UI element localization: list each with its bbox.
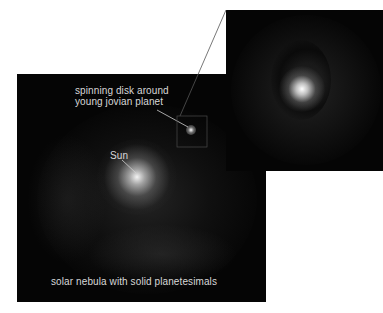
disk-label-line1: spinning disk around [75,85,169,96]
jovian-planet-dot [186,125,196,135]
nebula-caption: solar nebula with solid planetesimals [51,276,217,287]
spiral-arm-lower [87,224,237,284]
disk-label-line2: young jovian planet [75,96,163,107]
jovian-disk-inset-panel [226,10,383,171]
spiral-arm-left [27,134,107,264]
sun-glow [97,139,177,215]
sun-label: Sun [110,150,128,161]
inset-planet-glow [279,66,325,112]
